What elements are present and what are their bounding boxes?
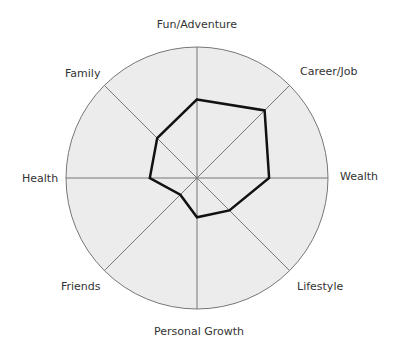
label-career: Career/Job bbox=[300, 65, 357, 78]
label-wealth: Wealth bbox=[340, 170, 378, 183]
label-family: Family bbox=[65, 67, 101, 80]
label-lifestyle: Lifestyle bbox=[297, 280, 343, 293]
spokes bbox=[66, 47, 328, 309]
label-growth: Personal Growth bbox=[154, 325, 244, 338]
wheel-of-life-chart: Fun/Adventure Career/Job Wealth Lifestyl… bbox=[0, 0, 397, 357]
label-friends: Friends bbox=[61, 280, 101, 293]
label-fun: Fun/Adventure bbox=[157, 18, 238, 31]
label-health: Health bbox=[22, 172, 58, 185]
